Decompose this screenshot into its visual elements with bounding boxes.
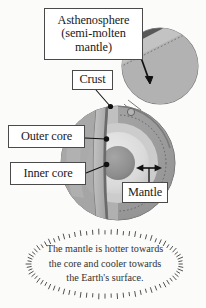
caption-line2: the core and cooler towards (49, 257, 162, 271)
caption-line3: the Earth's surface. (66, 271, 143, 285)
label-outer-core[interactable]: Outer core (8, 125, 85, 148)
label-crust[interactable]: Crust (72, 70, 113, 90)
label-asthenosphere-line3: mantle) (75, 41, 112, 54)
caption-line1: The mantle is hotter towards (47, 242, 164, 256)
crust-leader-line (96, 90, 110, 106)
caption-text: The mantle is hotter towards the core an… (34, 240, 176, 288)
label-asthenosphere[interactable]: Asthenosphere (semi-molten mantle) (44, 8, 143, 60)
label-mantle[interactable]: Mantle (122, 182, 168, 203)
label-asthenosphere-line2: (semi-molten (61, 27, 125, 40)
label-inner-core[interactable]: Inner core (10, 162, 86, 185)
inset-source-marker (127, 108, 134, 115)
diagram-page: Asthenosphere (semi-molten mantle) Crust… (0, 0, 206, 308)
caption-callout: The mantle is hotter towards the core an… (18, 228, 192, 300)
outer-core-leader-dot (104, 136, 109, 141)
crust-leader-dot (108, 104, 113, 109)
inner-core-leader-dot (104, 162, 110, 168)
